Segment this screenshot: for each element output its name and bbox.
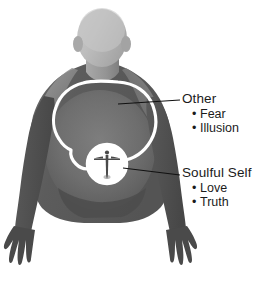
bullet-icon: •: [192, 196, 200, 210]
callout-soulful-self: Soulful Self •Love •Truth: [182, 166, 252, 210]
callout-soulful-self-title: Soulful Self: [182, 166, 252, 181]
soulful-self-diagram: Other •Fear •Illusion Soulful Self •Love…: [0, 0, 263, 286]
callout-other-item-0: Fear: [200, 107, 226, 121]
callout-other-title: Other: [182, 92, 239, 107]
list-item: •Fear: [192, 108, 239, 122]
callout-soulful-self-item-1: Truth: [200, 195, 229, 209]
callout-soulful-self-list: •Love •Truth: [182, 182, 252, 211]
bullet-icon: •: [192, 182, 200, 196]
list-item: •Illusion: [192, 122, 239, 136]
bullet-icon: •: [192, 122, 200, 136]
callout-other-item-1: Illusion: [200, 121, 239, 135]
callout-other: Other •Fear •Illusion: [182, 92, 239, 136]
body-silhouette: [0, 0, 263, 286]
human-figure-illustration: [0, 0, 263, 286]
callout-other-list: •Fear •Illusion: [182, 108, 239, 137]
callout-soulful-self-item-0: Love: [200, 181, 227, 195]
list-item: •Love: [192, 182, 252, 196]
list-item: •Truth: [192, 196, 252, 210]
bullet-icon: •: [192, 108, 200, 122]
